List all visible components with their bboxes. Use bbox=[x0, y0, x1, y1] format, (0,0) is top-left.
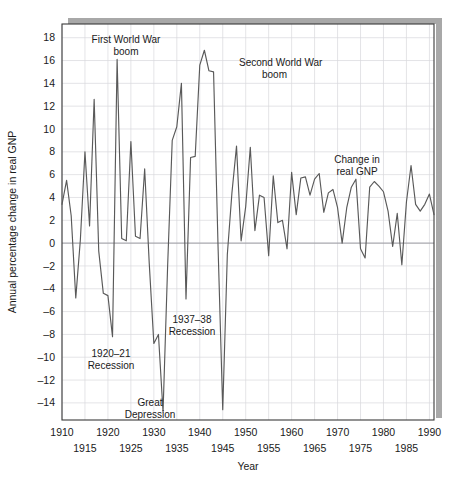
x-tick-label-major: 1960 bbox=[280, 426, 304, 438]
annotation-line-1: 1920–21 bbox=[92, 348, 131, 359]
x-tick-label-major: 1980 bbox=[372, 426, 396, 438]
annotation-line-1: Change in bbox=[334, 154, 380, 165]
y-tick-label: 18 bbox=[43, 31, 55, 43]
y-tick-label: 4 bbox=[49, 191, 55, 203]
x-tick-label-major: 1950 bbox=[234, 426, 258, 438]
x-tick-label-minor: 1965 bbox=[303, 442, 327, 454]
y-tick-label: –14 bbox=[37, 396, 55, 408]
gnp-chart-figure: –14–12–10–8–6–4–2024681012141618 1910192… bbox=[0, 0, 453, 492]
x-tick-label-minor: 1955 bbox=[257, 442, 281, 454]
x-tick-label-minor: 1915 bbox=[73, 442, 97, 454]
y-axis-title: Annual percentage change in real GNP bbox=[6, 131, 18, 314]
x-tick-label-major: 1970 bbox=[326, 426, 350, 438]
x-tick-label-minor: 1985 bbox=[395, 442, 419, 454]
x-tick-label-minor: 1925 bbox=[119, 442, 143, 454]
y-tick-label: 8 bbox=[49, 145, 55, 157]
y-tick-label: 16 bbox=[43, 54, 55, 66]
y-tick-label: 14 bbox=[43, 77, 55, 89]
y-tick-label: –10 bbox=[37, 351, 55, 363]
y-axis-tick-labels: –14–12–10–8–6–4–2024681012141618 bbox=[37, 31, 55, 408]
annotation-recession-1920-21: 1920–21 Recession bbox=[88, 348, 135, 371]
annotation-line-2: boom bbox=[113, 46, 138, 57]
x-tick-label-minor: 1935 bbox=[165, 442, 189, 454]
x-tick-label-major: 1930 bbox=[142, 426, 166, 438]
x-tick-label-major: 1940 bbox=[188, 426, 212, 438]
x-tick-label-minor: 1975 bbox=[349, 442, 373, 454]
y-tick-label: 6 bbox=[49, 168, 55, 180]
annotation-line-1: 1937–38 bbox=[173, 314, 212, 325]
annotation-recession-1937-38: 1937–38 Recession bbox=[169, 314, 216, 337]
x-tick-label-major: 1910 bbox=[50, 426, 74, 438]
y-tick-label: 12 bbox=[43, 100, 55, 112]
annotation-line-2: Recession bbox=[169, 326, 216, 337]
annotation-line-1: Second World War bbox=[239, 57, 323, 68]
annotation-series-label: Change in real GNP bbox=[334, 154, 380, 177]
annotation-line-2: Recession bbox=[88, 360, 135, 371]
chart-canvas: –14–12–10–8–6–4–2024681012141618 1910192… bbox=[0, 0, 453, 492]
annotation-line-2: Depression bbox=[125, 409, 176, 420]
x-tick-label-minor: 1945 bbox=[211, 442, 235, 454]
annotation-line-1: Great bbox=[137, 397, 162, 408]
y-tick-label: –2 bbox=[43, 260, 55, 272]
y-tick-label: –6 bbox=[43, 305, 55, 317]
annotation-line-2: boom bbox=[262, 69, 287, 80]
y-tick-label: –4 bbox=[43, 282, 55, 294]
x-axis-tick-labels: 1910192019301940195019601970198019901915… bbox=[50, 426, 441, 454]
annotation-line-1: First World War bbox=[92, 34, 162, 45]
y-tick-label: 0 bbox=[49, 237, 55, 249]
annotation-line-2: real GNP bbox=[336, 166, 377, 177]
x-axis-title: Year bbox=[237, 460, 259, 472]
y-tick-label: –12 bbox=[37, 374, 55, 386]
y-tick-label: –8 bbox=[43, 328, 55, 340]
y-tick-label: 10 bbox=[43, 123, 55, 135]
x-tick-label-major: 1990 bbox=[418, 426, 442, 438]
x-tick-label-major: 1920 bbox=[96, 426, 120, 438]
y-tick-label: 2 bbox=[49, 214, 55, 226]
